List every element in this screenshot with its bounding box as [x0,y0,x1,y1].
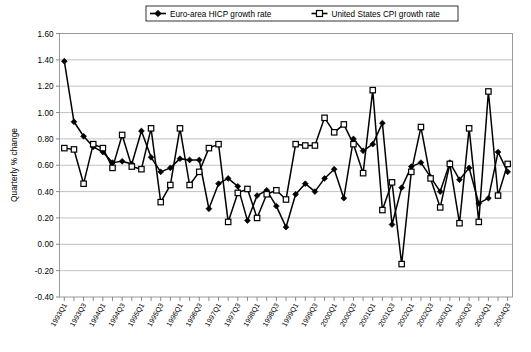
data-point-marker [312,143,317,148]
y-tick-label: 1.20 [38,82,54,91]
data-point-marker [303,143,308,148]
legend-label: Euro-area HICP growth rate [170,10,272,19]
y-tick-label: 0.00 [38,240,54,249]
data-point-marker [486,89,491,94]
legend-label: United States CPI growth rate [332,10,441,19]
data-point-marker [331,130,336,135]
data-point-marker [158,199,163,204]
legend-marker-square [317,11,323,17]
data-point-marker [351,141,356,146]
data-point-marker [235,190,240,195]
data-point-marker [216,141,221,146]
y-tick-label: 0.60 [38,161,54,170]
line-chart: Euro-area HICP growth rateUnited States … [0,0,531,352]
data-point-marker [71,147,76,152]
data-point-marker [447,161,452,166]
data-point-marker [505,161,510,166]
data-point-marker [409,169,414,174]
data-point-marker [245,186,250,191]
data-point-marker [495,193,500,198]
data-point-marker [399,261,404,266]
data-point-marker [139,167,144,172]
y-tick-label: 0.80 [38,135,54,144]
data-point-marker [187,182,192,187]
data-point-marker [476,219,481,224]
y-tick-label: -0.40 [35,293,54,302]
data-point-marker [389,180,394,185]
data-point-marker [254,215,259,220]
y-tick-label: 1.60 [38,30,54,39]
data-point-marker [380,207,385,212]
chart-legend: Euro-area HICP growth rateUnited States … [146,6,458,21]
data-point-marker [457,221,462,226]
data-point-marker [264,192,269,197]
data-point-marker [274,188,279,193]
data-point-marker [283,197,288,202]
data-point-marker [197,169,202,174]
data-point-marker [360,170,365,175]
data-point-marker [438,205,443,210]
data-point-marker [168,182,173,187]
legend-item-us-cpi[interactable]: United States CPI growth rate [312,10,441,19]
chart-container: Euro-area HICP growth rateUnited States … [0,0,531,352]
data-point-marker [370,87,375,92]
data-point-marker [322,115,327,120]
data-point-marker [341,122,346,127]
y-tick-label: 0.40 [38,188,54,197]
data-point-marker [62,145,67,150]
data-point-marker [428,176,433,181]
data-point-marker [100,145,105,150]
data-point-marker [129,164,134,169]
data-point-marker [119,132,124,137]
data-point-marker [91,141,96,146]
y-axis-title: Quarterly % change [9,128,19,202]
data-point-marker [466,126,471,131]
data-point-marker [148,126,153,131]
data-point-marker [418,124,423,129]
data-point-marker [110,165,115,170]
y-tick-label: 1.40 [38,56,54,65]
data-point-marker [206,145,211,150]
data-point-marker [293,141,298,146]
data-point-marker [225,219,230,224]
y-tick-label: 0.20 [38,214,54,223]
y-tick-label: -0.20 [35,267,54,276]
y-tick-label: 1.00 [38,109,54,118]
data-point-marker [81,181,86,186]
data-point-marker [177,126,182,131]
